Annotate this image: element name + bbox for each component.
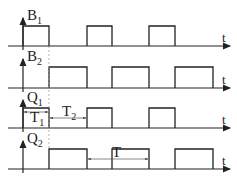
signal-label: B1 [27,7,42,26]
signal-label: B2 [27,48,42,67]
waveform [49,67,213,88]
waveform [23,26,175,46]
period-annotation-t2: T2 [50,103,86,122]
time-label: t [222,72,226,87]
time-label: t [222,112,226,127]
waveform [23,108,175,128]
signal-b2: B2t [8,48,230,92]
signal-label: Q1 [27,89,43,108]
svg-text:T: T [112,144,121,160]
signal-label: Q2 [27,130,43,149]
time-label: t [222,30,226,45]
signal-b1: B1t [8,7,230,50]
period-annotation-t1: T1 [24,109,48,128]
period-annotation-t: T [88,144,148,160]
timing-diagram: B1tB2tQ1tQ2t T1T2T [0,0,237,183]
time-label: t [222,153,226,168]
svg-text:T2: T2 [62,103,76,122]
